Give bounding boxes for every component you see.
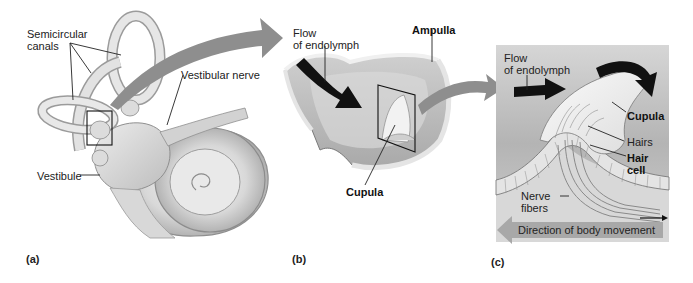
label-flow-line1-b: Flow — [293, 27, 359, 39]
label-flow-of-endolymph-c: Flow of endolymph — [504, 52, 570, 76]
panel-letter-c: (c) — [491, 256, 504, 268]
label-vestibular-nerve: Vestibular nerve — [181, 69, 260, 81]
label-cupula-b: Cupula — [346, 186, 383, 198]
label-ampulla: Ampulla — [412, 24, 455, 36]
label-hairs: Hairs — [627, 136, 653, 148]
label-semicircular-canals: Semicircular canals — [27, 28, 88, 52]
label-vestibule: Vestibule — [37, 170, 82, 182]
label-hair-cell-line1: Hair — [627, 152, 648, 164]
label-flow-line1-c: Flow — [504, 52, 570, 64]
label-semicircular-line1: Semicircular — [27, 28, 88, 40]
label-nerve-fibers: Nerve fibers — [521, 190, 550, 214]
panel-letter-a: (a) — [26, 253, 39, 265]
vestibular-apparatus-figure: Semicircular canals Vestibular nerve Ves… — [0, 0, 693, 283]
label-cupula-c: Cupula — [627, 110, 664, 122]
label-hair-cell-line2: cell — [627, 164, 648, 176]
label-hair-cell: Hair cell — [627, 152, 648, 176]
panel-letter-b: (b) — [292, 253, 306, 265]
label-flow-line2-c: of endolymph — [504, 64, 570, 76]
label-flow-line2-b: of endolymph — [293, 39, 359, 51]
label-direction-of-body-movement: Direction of body movement — [518, 224, 655, 236]
label-nerve-fibers-line2: fibers — [521, 202, 550, 214]
label-semicircular-line2: canals — [27, 40, 88, 52]
label-flow-of-endolymph-b: Flow of endolymph — [293, 27, 359, 51]
label-nerve-fibers-line1: Nerve — [521, 190, 550, 202]
